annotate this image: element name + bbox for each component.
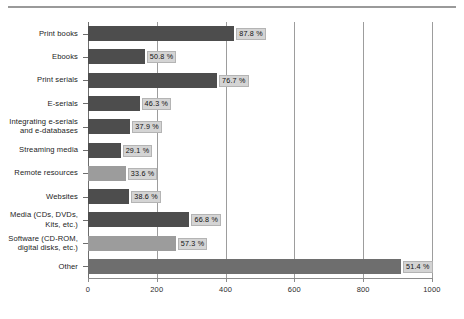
category-label: Streaming media [19,145,78,154]
bar [88,236,176,251]
category-label: Remote resources [14,168,78,177]
category-label: E-serials [48,99,78,108]
bar [88,119,130,134]
bar-value-label: 33.6 % [128,168,158,180]
category-label: Print books [39,29,78,38]
x-tick-1000 [432,278,433,282]
bar [88,49,145,64]
bar-value-label: 46.3 % [142,98,172,110]
x-tick-0 [88,278,89,282]
bar-value-label: 87.8 % [236,28,266,40]
category-label: Software (CD-ROM, digital disks, etc.) [8,234,78,252]
gridline-600 [294,22,295,278]
bar [88,73,217,88]
bar-value-label: 37.9 % [132,121,162,133]
x-axis-line [88,278,433,279]
x-tick-label-200: 200 [150,285,163,294]
x-tick-label-800: 800 [357,285,370,294]
bar [88,166,126,181]
category-label: Print serials [37,75,78,84]
category-label: Ebooks [52,52,78,61]
bar-value-label: 66.8 % [191,214,221,226]
category-label: Other [59,262,79,271]
x-tick-800 [363,278,364,282]
bar-value-label: 29.1 % [123,145,153,157]
x-tick-label-400: 400 [219,285,232,294]
bar [88,212,189,227]
category-label: Media (CDs, DVDs, Kits, etc.) [10,210,78,228]
x-tick-600 [294,278,295,282]
bar [88,143,121,158]
bar-value-label: 57.3 % [178,238,208,250]
x-tick-400 [226,278,227,282]
category-label: Websites [46,192,78,201]
x-tick-label-600: 600 [288,285,301,294]
top-divider-rule [8,6,456,8]
x-tick-200 [157,278,158,282]
bar-value-label: 51.4 % [403,261,433,273]
gridline-400 [226,22,227,278]
x-tick-label-1000: 1000 [423,285,441,294]
category-label: Integrating e-serials and e-databases [9,117,78,135]
bar-chart-figure: 02004006008001000 Print books87.8 %Ebook… [0,0,464,319]
bar-value-label: 76.7 % [219,75,249,87]
x-tick-label-0: 0 [86,285,90,294]
bar [88,26,234,41]
gridline-800 [363,22,364,278]
bar-value-label: 38.6 % [131,191,161,203]
bar [88,259,401,274]
bar [88,96,140,111]
bar-value-label: 50.8 % [147,51,177,63]
bar [88,189,129,204]
gridline-1000 [432,22,433,278]
